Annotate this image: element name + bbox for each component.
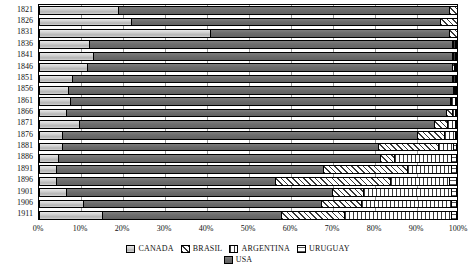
legend-label: BRASIL [193,244,223,253]
y-axis-tick-label: 1871 [17,119,33,127]
bar-segment-canada [39,63,87,72]
bar-segment-usa [131,18,440,27]
legend-item-uruguay[interactable]: URUGUAY [297,244,350,253]
legend-label: CANADA [138,244,173,253]
x-axis-labels: 0%10%20%30%40%50%60%70%80%90%100% [0,224,476,238]
bar-segment-canada [39,154,58,163]
legend-label: USA [236,255,253,264]
bar-segment-brasil [378,143,439,152]
table-row [39,188,457,197]
bar-segment-usa [70,97,450,106]
bar-segment-canada [39,29,210,38]
legend-item-argentina[interactable]: ARGENTINA [229,244,289,253]
bar-segment-uruguay [455,120,457,129]
bar-segment-usa [56,177,275,186]
bar-segment-canada [39,165,56,174]
y-axis-tick-label: 1851 [17,74,33,82]
table-row [39,86,457,95]
bar-segment-uruguay [449,177,457,186]
x-axis-tick-label: 90% [409,224,424,233]
y-axis-tick-label: 1856 [17,85,33,93]
bar-segment-uruguay [455,97,457,106]
bar-segment-uruguay [451,154,457,163]
legend-swatch-icon [126,245,135,253]
x-axis-tick-label: 20% [115,224,130,233]
bar-segment-canada [39,86,68,95]
y-axis-tick-label: 1846 [17,63,33,71]
y-axis-tick-label: 1906 [17,199,33,207]
table-row [39,29,457,38]
chart-legend: CANADABRASILARGENTINAURUGUAYUSA [0,244,476,264]
bar-segment-argentina [447,120,455,129]
legend-label: ARGENTINA [241,244,289,253]
bar-segment-canada [39,75,72,84]
y-axis-tick-label: 1886 [17,153,33,161]
x-axis-tick-label: 50% [241,224,256,233]
bar-segment-canada [39,40,89,49]
bar-segment-argentina [361,200,451,209]
bar-segment-brasil [440,18,457,27]
bar-segment-canada [39,131,62,140]
y-axis-tick-label: 1821 [17,6,33,14]
y-axis-tick-label: 1896 [17,176,33,184]
x-axis-tick-label: 40% [199,224,214,233]
bar-segment-uruguay [453,143,457,152]
bar-segment-argentina [390,177,449,186]
bar-segment-usa [62,131,417,140]
bar-segment-argentina [394,154,450,163]
bar-segment-uruguay [451,165,457,174]
table-row [39,165,457,174]
legend-swatch-icon [181,245,190,253]
table-row [39,52,457,61]
legend-item-usa[interactable]: USA [224,255,253,264]
bar-segment-usa [83,200,321,209]
bar-segment-canada [39,18,131,27]
bar-segment-canada [39,177,56,186]
table-row [39,154,457,163]
legend-item-canada[interactable]: CANADA [126,244,173,253]
bar-segment-brasil [323,165,407,174]
legend-swatch-icon [297,245,306,253]
y-axis-tick-label: 1901 [17,188,33,196]
bar-segment-uruguay [455,131,457,140]
bar-segment-canada [39,188,66,197]
bar-segment-uruguay [451,211,457,220]
x-axis-tick-label: 60% [283,224,298,233]
x-axis-tick-label: 10% [73,224,88,233]
bar-segment-brasil [417,131,444,140]
bar-segment-uruguay [451,188,457,197]
x-axis-tick-label: 0% [33,224,44,233]
bar-segment-usa [102,211,282,220]
table-row [39,6,457,15]
bar-segment-canada [39,143,62,152]
bar-segment-argentina [444,131,454,140]
bar-segment-brasil [449,6,457,15]
legend-swatch-icon [229,245,238,253]
bar-segment-usa [87,63,452,72]
bar-segment-usa [72,75,452,84]
bar-segment-brasil [275,177,390,186]
plot-area [38,4,458,220]
bar-segment-usa [66,188,331,197]
y-axis-tick-label: 1911 [17,210,33,218]
stacked-bar-chart: 1821182618311836184118461851185618611866… [0,0,476,280]
legend-row: CANADABRASILARGENTINAURUGUAY [126,244,349,253]
x-axis-tick-label: 70% [325,224,340,233]
bar-segment-canada [39,97,70,106]
table-row [39,97,457,106]
legend-item-brasil[interactable]: BRASIL [181,244,223,253]
x-axis-tick-label: 100% [449,224,468,233]
y-axis-tick-label: 1881 [17,142,33,150]
bar-segment-brasil [449,29,457,38]
bar-segment-canada [39,120,79,129]
bar-segment-usa [93,52,452,61]
bar-segment-brasil [332,188,363,197]
bar-segment-canada [39,109,66,118]
bar-segment-usa [210,29,448,38]
table-row [39,177,457,186]
bar-rows [39,5,457,219]
table-row [39,18,457,27]
bar-segment-uruguay [455,40,457,49]
bar-segment-usa [89,40,452,49]
bar-segment-canada [39,6,118,15]
